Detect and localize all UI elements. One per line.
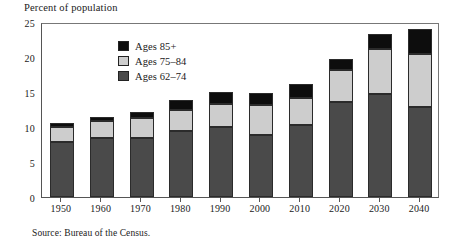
- chart-title: Percent of population: [24, 2, 118, 13]
- bar-segment-ages_85_plus: [249, 93, 273, 104]
- legend-swatch-icon: [118, 41, 129, 51]
- bar-segment-ages_62_74: [169, 131, 193, 197]
- bar-segment-ages_62_74: [209, 127, 233, 197]
- bar-1960: [90, 117, 114, 198]
- legend-item-ages_75_84: Ages 75–84: [118, 54, 222, 68]
- bar-1990: [209, 92, 233, 197]
- x-axis-tick-mark: [100, 198, 101, 202]
- legend-item-ages_85_plus: Ages 85+: [118, 39, 222, 53]
- bar-segment-ages_62_74: [130, 138, 154, 198]
- bar-segment-ages_85_plus: [368, 34, 392, 49]
- y-axis-tick-label: 25: [5, 18, 35, 29]
- bar-segment-ages_75_84: [90, 121, 114, 138]
- x-axis-tick-label: 2040: [397, 203, 441, 214]
- y-axis-tick-label: 10: [5, 123, 35, 134]
- bar-segment-ages_62_74: [408, 107, 432, 197]
- bar-segment-ages_75_84: [408, 54, 432, 107]
- bar-segment-ages_85_plus: [50, 123, 74, 127]
- bar-segment-ages_85_plus: [90, 117, 114, 121]
- legend-swatch-icon: [118, 71, 129, 81]
- x-axis-tick-label: 2010: [278, 203, 322, 214]
- x-axis-tick-label: 2030: [357, 203, 401, 214]
- bar-segment-ages_75_84: [249, 105, 273, 135]
- source-note: Source: Bureau of the Census.: [32, 228, 150, 238]
- y-axis-tick-label: 20: [5, 53, 35, 64]
- legend-item-ages_62_74: Ages 62–74: [118, 69, 222, 83]
- bar-2020: [329, 59, 353, 197]
- bar-segment-ages_62_74: [289, 125, 313, 197]
- x-axis-tick-label: 1980: [158, 203, 202, 214]
- bar-segment-ages_85_plus: [209, 92, 233, 104]
- y-axis-tick-label: 5: [5, 158, 35, 169]
- x-axis-tick-label: 2020: [318, 203, 362, 214]
- chart-figure: Percent of population 0510152025 1950196…: [0, 0, 463, 250]
- x-axis-tick-label: 1970: [119, 203, 163, 214]
- x-axis-tick-mark: [299, 198, 300, 202]
- bar-2000: [249, 93, 273, 197]
- x-axis-tick-mark: [379, 198, 380, 202]
- x-axis-tick-mark: [259, 198, 260, 202]
- bar-segment-ages_85_plus: [289, 84, 313, 98]
- bar-segment-ages_62_74: [329, 102, 353, 197]
- y-axis-tick-label: 15: [5, 88, 35, 99]
- x-axis-tick-mark: [339, 198, 340, 202]
- bar-segment-ages_75_84: [209, 104, 233, 127]
- bar-segment-ages_75_84: [169, 110, 193, 132]
- x-axis-tick-label: 1990: [198, 203, 242, 214]
- x-axis-tick-mark: [60, 198, 61, 202]
- x-axis-tick-label: 1950: [39, 203, 83, 214]
- x-axis-tick-mark: [220, 198, 221, 202]
- bar-1980: [169, 100, 193, 197]
- bar-segment-ages_62_74: [90, 138, 114, 198]
- bar-2030: [368, 34, 392, 197]
- bar-segment-ages_62_74: [368, 94, 392, 197]
- x-axis-tick-label: 2000: [238, 203, 282, 214]
- bar-1970: [130, 112, 154, 197]
- legend-item-label: Ages 85+: [135, 41, 176, 52]
- x-axis-tick-mark: [140, 198, 141, 202]
- bar-segment-ages_85_plus: [408, 29, 432, 54]
- legend-swatch-icon: [118, 56, 129, 66]
- x-axis-tick-mark: [419, 198, 420, 202]
- bar-2040: [408, 29, 432, 197]
- bar-segment-ages_75_84: [289, 98, 313, 125]
- legend-item-label: Ages 75–84: [135, 56, 186, 67]
- bar-segment-ages_62_74: [50, 142, 74, 197]
- bar-segment-ages_85_plus: [169, 100, 193, 110]
- bar-1950: [50, 123, 74, 197]
- bar-segment-ages_62_74: [249, 135, 273, 197]
- bar-segment-ages_75_84: [50, 127, 74, 142]
- bars-container: [42, 24, 438, 197]
- plot-area: [41, 23, 439, 198]
- chart-legend: Ages 85+Ages 75–84Ages 62–74: [118, 39, 222, 84]
- x-axis-tick-mark: [180, 198, 181, 202]
- x-axis-tick-label: 1960: [79, 203, 123, 214]
- bar-segment-ages_75_84: [368, 49, 392, 94]
- bar-segment-ages_85_plus: [130, 112, 154, 118]
- bar-2010: [289, 84, 313, 197]
- bar-segment-ages_85_plus: [329, 59, 353, 70]
- y-axis-tick-label: 0: [5, 193, 35, 204]
- legend-item-label: Ages 62–74: [135, 71, 186, 82]
- bar-segment-ages_75_84: [130, 118, 154, 138]
- bar-segment-ages_75_84: [329, 70, 353, 102]
